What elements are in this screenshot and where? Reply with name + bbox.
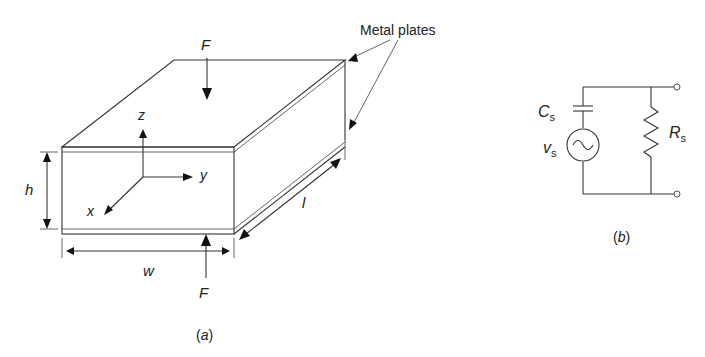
capacitor-icon (573, 106, 593, 111)
force-label-top: F (201, 36, 211, 53)
length-label: l (302, 194, 306, 211)
coordinate-axes-icon (104, 129, 193, 215)
force-label-bottom: F (199, 284, 209, 301)
resistor-icon (644, 107, 658, 157)
axis-y-label: y (199, 167, 208, 183)
metal-plates-pointer-icon (348, 40, 398, 130)
top-face (62, 60, 345, 147)
capacitor-label: Cs (538, 103, 556, 123)
height-label: h (25, 181, 33, 198)
caption-b: (b) (613, 229, 630, 245)
figure-b-circuit: Cs vs Rs (b) (538, 84, 687, 245)
ac-source-icon (567, 129, 599, 161)
height-dimension-icon (40, 152, 58, 229)
axis-z-label: z (137, 107, 145, 123)
caption-a: (a) (196, 327, 213, 343)
metal-plates-label: Metal plates (360, 22, 435, 38)
length-dimension-icon (239, 158, 341, 240)
source-label: vs (543, 139, 557, 159)
figure-a: F F Metal plates z y x (25, 22, 435, 343)
width-label: w (143, 262, 155, 279)
terminal-top (674, 84, 680, 90)
terminal-bottom (674, 191, 680, 197)
piezo-diagram: F F Metal plates z y x (0, 0, 705, 357)
resistor-label: Rs (669, 124, 687, 144)
force-arrow-top-icon (202, 58, 212, 100)
force-arrow-bottom-icon (201, 234, 211, 278)
front-face (62, 147, 234, 234)
axis-x-label: x (86, 203, 95, 219)
